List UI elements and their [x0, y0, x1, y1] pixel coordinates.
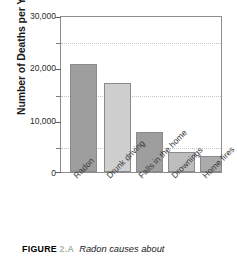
- x-axis-labels: Radon Drunk driving Falls in the home Dr…: [60, 174, 222, 230]
- caption-text: Radon causes about: [79, 244, 164, 254]
- bar-radon: [70, 64, 97, 173]
- y-tick-label: 30,000: [30, 11, 56, 21]
- figure-container: Number of Deaths per Year 30,000 20,000 …: [0, 0, 237, 262]
- y-tick-0: [55, 172, 61, 173]
- caption-figure-number: 2.A: [60, 244, 75, 254]
- y-tick-label: 20,000: [30, 63, 56, 73]
- bar-chart: Number of Deaths per Year 30,000 20,000 …: [0, 0, 237, 232]
- caption-figure-word: FIGURE: [22, 244, 57, 254]
- figure-caption: FIGURE 2.A Radon causes about: [22, 243, 237, 255]
- y-tick-label: 10,000: [30, 116, 56, 126]
- y-axis-tick-labels: 30,000 20,000 10,000 0: [0, 0, 60, 173]
- y-tick-label: 0: [51, 168, 56, 178]
